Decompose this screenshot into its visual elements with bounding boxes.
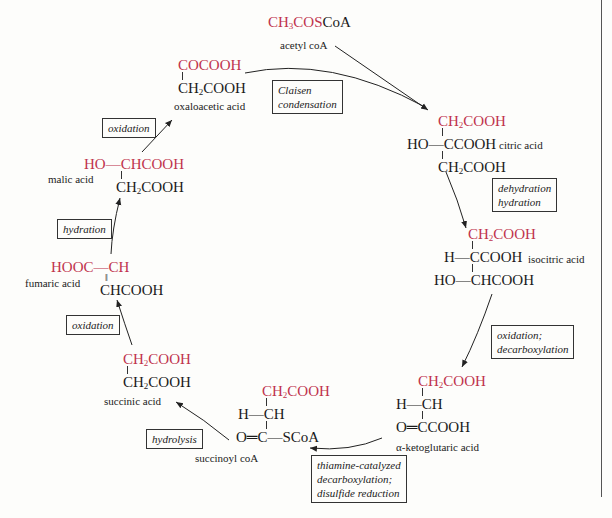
malic-label: malic acid	[48, 173, 94, 186]
reaction-claisen-condensation: Claisencondensation	[272, 80, 343, 114]
ketoglutaric-line1: CH2COOH	[418, 373, 486, 390]
bond	[442, 151, 443, 159]
reaction-dehydration-hydration: dehydrationhydration	[492, 178, 557, 212]
succinoyl-line3: O═C—SCoA	[236, 429, 319, 446]
succinic-label: succinic acid	[104, 395, 161, 408]
bond	[472, 241, 473, 249]
bond	[121, 171, 122, 179]
oxaloacetic-line1: COCOOH	[178, 57, 241, 74]
bond	[266, 398, 267, 406]
citric-line3: CH2COOH	[438, 159, 506, 176]
bond	[422, 411, 423, 419]
fumaric-line2: CHCOOH	[100, 282, 163, 299]
bond	[127, 366, 128, 374]
oxaloacetic-line2: CH2COOH	[178, 80, 246, 97]
succinic-line1: CH2COOH	[123, 351, 191, 368]
isocitric-label: isocitric acid	[528, 253, 585, 266]
arrow-fumaric-to-malic	[111, 198, 120, 254]
ketoglutaric-line3: O═CCOOH	[396, 419, 470, 436]
succinoyl-line1: CH2COOH	[262, 383, 330, 400]
citric-line1: CH2COOH	[438, 113, 506, 130]
succinic-line2: CH2COOH	[123, 374, 191, 391]
arrow-citric-to-isocitric	[446, 172, 466, 228]
ketoglutaric-line2: H—CH	[396, 396, 443, 413]
acetyl-coa-label: acetyl coA	[280, 39, 327, 52]
succinoyl-label: succinoyl coA	[195, 452, 258, 465]
bond	[266, 421, 267, 429]
reaction-oxidation-succinic: oxidation	[66, 315, 120, 335]
arrow-isocitric-to-ketoglutaric	[462, 294, 492, 367]
citric-label: citric acid	[499, 139, 543, 152]
reaction-hydration: hydration	[57, 219, 112, 239]
fumaric-line1: HOOC—CH	[51, 259, 129, 276]
isocitric-line1: CH2COOH	[468, 226, 536, 243]
malic-line2: CH2COOH	[116, 179, 184, 196]
reaction-hydrolysis: hydrolysis	[146, 429, 203, 449]
reaction-thiamine-decarboxylation: thiamine-catalyzeddecarboxylation;disulf…	[311, 455, 407, 503]
reaction-oxidation-malic: oxidation	[102, 118, 156, 138]
isocitric-line2: H—CCOOH	[444, 249, 522, 266]
citric-line2: HO—CCOOH	[407, 136, 496, 153]
fumaric-label: fumaric acid	[25, 277, 80, 290]
succinoyl-line2: H—CH	[238, 406, 285, 423]
bond	[182, 72, 183, 80]
arrow-ketoglutaric-to-succinoyl	[310, 438, 382, 449]
arrow-acetyl-to-citric	[335, 46, 428, 110]
acetyl-coa-formula: CH3COSCoA	[268, 14, 351, 31]
oxaloacetic-label: oxaloacetic acid	[174, 100, 245, 113]
reaction-oxidation-decarboxylation: oxidation;decarboxylation	[491, 325, 574, 359]
malic-line1: HO—CHCOOH	[84, 156, 184, 173]
double-bond: ‖	[105, 274, 108, 282]
bond	[472, 264, 473, 272]
isocitric-line3: HO—CHCOOH	[434, 272, 534, 289]
ketoglutaric-label: α-ketoglutaric acid	[396, 441, 479, 454]
bond	[442, 128, 443, 136]
bond	[422, 388, 423, 396]
